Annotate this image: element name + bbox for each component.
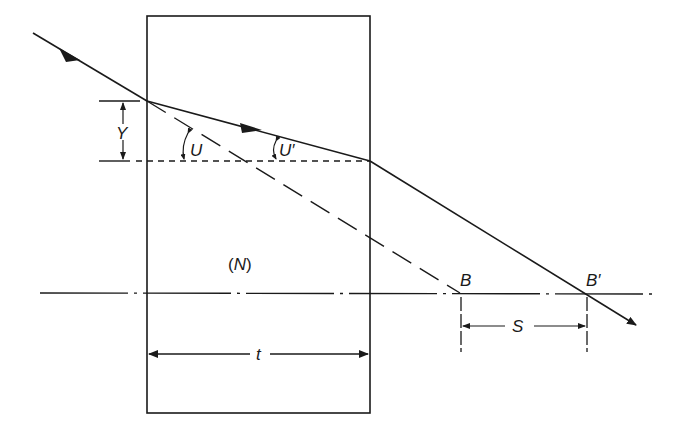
medium-label: (N) <box>228 255 252 274</box>
optical-axis <box>40 293 652 294</box>
angle-u-arc <box>183 133 188 159</box>
exit-ray <box>370 161 636 325</box>
incident-ray <box>33 33 147 101</box>
point-label-b: B <box>460 271 471 290</box>
angle-label-u: U <box>190 141 203 160</box>
height-label-y: Y <box>116 124 129 143</box>
plate-refraction-diagram: Y U U′ (N) B B′ S t <box>0 0 673 437</box>
angle-label-u-prime: U′ <box>279 141 295 160</box>
refracted-ray <box>147 101 370 161</box>
shift-label-s: S <box>512 317 524 336</box>
point-label-b-prime: B′ <box>586 271 601 290</box>
virtual-ray-extension <box>147 101 460 293</box>
incident-ray-arrow-icon <box>59 48 80 62</box>
thickness-label-t: t <box>256 345 262 364</box>
angle-u-prime-arc <box>274 141 277 159</box>
